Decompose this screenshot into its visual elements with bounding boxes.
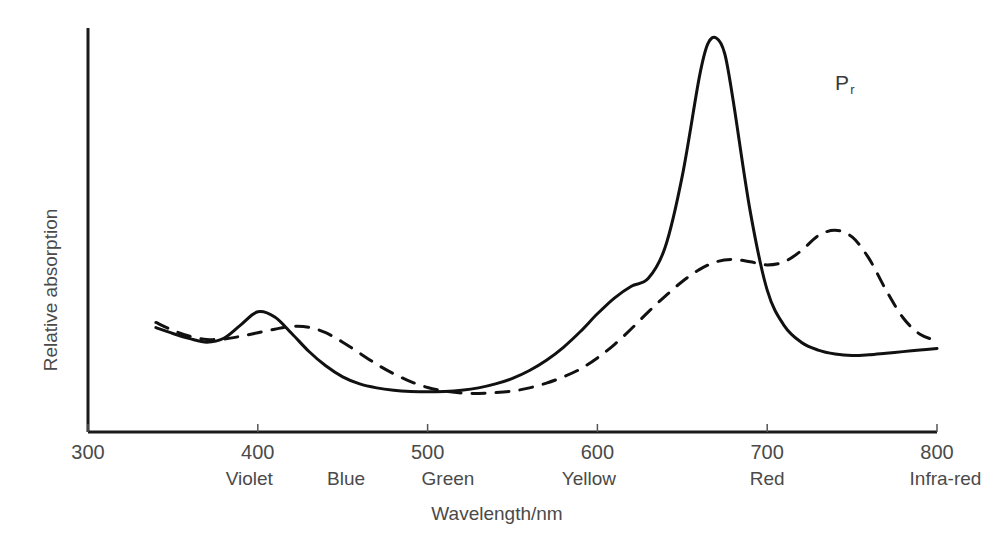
x-tick-label-800: 800 (920, 441, 953, 464)
x-tick-label-700: 700 (751, 441, 784, 464)
phytochrome-absorption-chart: Relative absorption 300400500600700800 V… (0, 0, 995, 547)
band-label-violet: Violet (226, 468, 273, 490)
x-tick-label-600: 600 (581, 441, 614, 464)
band-label-red: Red (750, 468, 785, 490)
y-axis-title-text: Relative absorption (40, 140, 62, 440)
band-label-blue: Blue (327, 468, 365, 490)
series-label-pr: Pr (835, 71, 853, 95)
band-label-yellow: Yellow (562, 468, 616, 490)
band-label-infra-red: Infra-red (910, 468, 982, 490)
y-axis-title: Relative absorption (18, 0, 40, 140)
series-label-subscript: r (850, 82, 854, 97)
x-tick-label-400: 400 (241, 441, 274, 464)
x-tick-label-500: 500 (411, 441, 444, 464)
series-label-base: P (835, 71, 849, 94)
x-axis-title: Wavelength/nm (431, 503, 562, 525)
x-tick-label-300: 300 (71, 441, 104, 464)
band-label-green: Green (422, 468, 475, 490)
axes (88, 28, 937, 432)
series-line-pr (156, 37, 937, 392)
data-series-group (156, 37, 937, 393)
series-line-pfr (156, 230, 937, 393)
